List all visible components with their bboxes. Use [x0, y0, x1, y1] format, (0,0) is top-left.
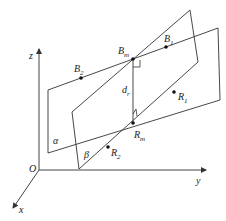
- alpha-label: α: [53, 136, 58, 146]
- beta-label: β: [84, 150, 89, 160]
- point-Bm: [131, 57, 135, 61]
- right-angle-top: [133, 60, 140, 67]
- point-R2: [106, 145, 110, 149]
- diagram-canvas: [0, 0, 226, 221]
- point-R1: [172, 90, 176, 94]
- label-Rm: Rm: [134, 130, 145, 143]
- label-dr: dr: [122, 85, 130, 98]
- label-B1: B1: [164, 34, 174, 47]
- plane-beta: [72, 10, 198, 169]
- label-R1: R1: [178, 92, 188, 105]
- label-R2: R2: [111, 148, 121, 161]
- x-axis: [13, 170, 39, 208]
- point-Rm: [131, 121, 135, 125]
- label-Bm: Bm: [118, 46, 129, 59]
- y-axis-label: y: [196, 176, 200, 186]
- x-axis-label: x: [19, 205, 23, 215]
- z-axis-label: z: [29, 51, 33, 61]
- label-B2: B2: [74, 64, 84, 77]
- right-angle-bottom: [133, 109, 137, 116]
- origin-label: O: [29, 164, 36, 174]
